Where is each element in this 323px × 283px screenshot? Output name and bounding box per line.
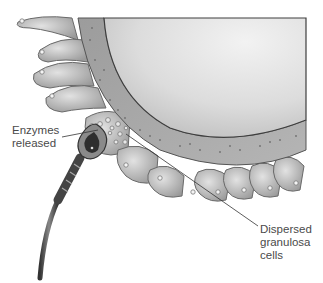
label-line: released	[12, 137, 59, 150]
label-enzymes-released: Enzymes released	[12, 124, 59, 150]
sperm-tail	[40, 200, 58, 278]
label-line: granulosa	[260, 236, 312, 249]
sperm-midpiece	[58, 158, 80, 200]
label-line: cells	[260, 249, 312, 262]
label-line: Dispersed	[260, 223, 312, 236]
fertilization-diagram: Enzymes released Dispersed granulosa cel…	[0, 0, 323, 283]
label-line: Enzymes	[12, 124, 59, 137]
label-dispersed-granulosa-cells: Dispersed granulosa cells	[260, 223, 312, 262]
